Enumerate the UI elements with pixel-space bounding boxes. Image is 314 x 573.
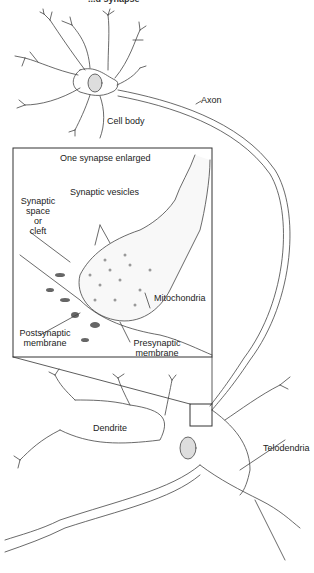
lower-neuron <box>5 369 300 560</box>
neuron-diagram <box>0 0 314 573</box>
zoom-box <box>190 404 212 426</box>
label-dendrite: Dendrite <box>93 423 127 433</box>
label-synaptic-vesicles: Synaptic vesicles <box>70 187 139 197</box>
label-cell-body: Cell body <box>107 116 145 126</box>
title-fragment: ...d synapse <box>88 0 140 4</box>
lower-nucleus <box>180 437 196 459</box>
label-presynaptic-membrane: Presynaptic membrane <box>126 338 188 358</box>
label-inset-title: One synapse enlarged <box>60 153 151 163</box>
label-synaptic-cleft: Synaptic space or cleft <box>18 196 58 236</box>
upper-nucleus <box>88 74 102 92</box>
label-telodendria: Telodendria <box>263 443 310 453</box>
label-mitochondria: Mitochondria <box>154 293 206 303</box>
synapse-enlarged <box>20 155 212 355</box>
label-axon: Axon <box>201 95 222 105</box>
label-postsynaptic-membrane: Postsynaptic membrane <box>14 328 76 348</box>
